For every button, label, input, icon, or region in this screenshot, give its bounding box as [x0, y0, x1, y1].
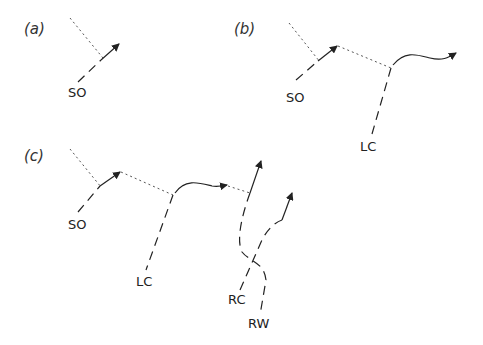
- panel-c-lc-dashed: [146, 195, 173, 270]
- panel-b: (b) SO LC: [234, 20, 456, 154]
- panel-a: (a) SO: [24, 18, 119, 100]
- panel-a-label: (a): [24, 20, 45, 38]
- panel-c-lc-arrow: [175, 183, 227, 193]
- panel-a-so-dashed: [78, 60, 101, 82]
- panel-c: (c) SO LC RC RW: [24, 147, 292, 331]
- panel-c-rc-dashed: [240, 220, 282, 290]
- panel-b-label: (b): [234, 20, 255, 38]
- panel-c-so-arrow: [100, 172, 120, 186]
- diagram-svg: (a) SO (b) SO LC (c) SO LC RC RW: [0, 0, 483, 345]
- panel-b-dotted-track-2: [338, 46, 391, 68]
- panel-b-dotted-track-1: [289, 23, 320, 62]
- panel-a-so-label: SO: [68, 85, 86, 100]
- panel-b-lc-dashed: [372, 68, 391, 134]
- panel-a-dotted-track: [70, 18, 103, 58]
- diagram-canvas: (a) SO (b) SO LC (c) SO LC RC RW: [0, 0, 483, 345]
- panel-c-so-dashed: [78, 186, 100, 212]
- panel-c-rc-label: RC: [228, 292, 245, 307]
- panel-a-so-arrow: [101, 44, 119, 60]
- panel-b-so-dashed: [296, 61, 318, 80]
- panel-c-label: (c): [24, 147, 44, 165]
- panel-c-dotted-track-3: [228, 186, 250, 193]
- panel-c-rc-arrow: [250, 161, 261, 193]
- panel-c-so-label: SO: [68, 217, 86, 232]
- panel-b-so-arrow: [318, 46, 337, 61]
- panel-c-rw-arrow: [282, 193, 292, 220]
- panel-c-dotted-track-1: [70, 149, 101, 187]
- panel-c-dotted-track-2: [121, 172, 173, 195]
- panel-b-lc-arrow: [393, 53, 456, 65]
- panel-b-so-label: SO: [286, 90, 304, 105]
- panel-c-rw-label: RW: [248, 316, 270, 331]
- panel-c-lc-label: LC: [136, 274, 152, 289]
- panel-b-lc-label: LC: [360, 139, 376, 154]
